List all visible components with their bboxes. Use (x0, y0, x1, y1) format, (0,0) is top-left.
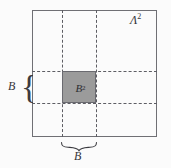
bottom-brace-icon (60, 138, 98, 148)
figure-container: Λ2 B2 { B B (0, 0, 171, 168)
left-brace-label: B (8, 80, 15, 92)
outer-label-exponent: 2 (137, 12, 141, 21)
left-brace-icon: { (21, 64, 33, 110)
inner-square-label: B2 (63, 72, 97, 104)
inner-square-b-squared: B2 (62, 71, 96, 103)
bottom-brace-label: B (74, 150, 81, 162)
outer-square-label: Λ2 (130, 13, 141, 26)
inner-label-base: B (75, 83, 82, 94)
inner-label-exponent: 2 (82, 85, 86, 92)
